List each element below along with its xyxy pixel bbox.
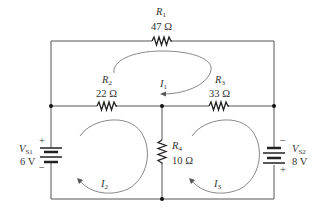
vs2-name-label: VS2: [292, 143, 306, 156]
vs2-minus-sign: −: [280, 135, 286, 146]
vs1-value-label: 6 V: [20, 156, 36, 167]
arrow-head-icon: [160, 92, 166, 97]
resistor-r1: R1 47 Ω: [151, 6, 172, 45]
r1-value-label: 47 Ω: [151, 21, 172, 32]
resistor-r2: R2 22 Ω: [96, 74, 117, 110]
r2-value-label: 22 Ω: [96, 88, 117, 99]
i2-label: I2: [100, 178, 109, 191]
wires: [51, 41, 274, 199]
vs1-name-label: VS1: [19, 143, 33, 156]
r2-name-label: R2: [101, 74, 112, 87]
loop-current-i3: I3: [189, 120, 259, 193]
i3-label: I3: [213, 178, 222, 191]
r3-value-label: 33 Ω: [209, 88, 230, 99]
vs2-plus-sign: +: [280, 164, 286, 175]
i1-label: I1: [159, 78, 168, 91]
r4-value-label: 10 Ω: [172, 155, 193, 166]
circuit-diagram: R1 47 Ω R2 22 Ω R3 33 Ω R4 10 Ω + − VS1 …: [0, 0, 322, 213]
vs1-plus-sign: +: [39, 135, 45, 146]
voltage-source-vs2: − + VS2 8 V: [263, 135, 308, 175]
r3-name-label: R3: [214, 74, 225, 87]
vs1-minus-sign: −: [39, 162, 45, 173]
vs2-value-label: 8 V: [292, 156, 308, 167]
loop-current-i1: I1: [114, 51, 211, 97]
loop-current-i2: I2: [77, 120, 147, 193]
resistor-r4: R4 10 Ω: [158, 140, 193, 166]
resistor-r3: R3 33 Ω: [209, 74, 230, 110]
voltage-source-vs1: + − VS1 6 V: [19, 135, 62, 173]
r1-name-label: R1: [155, 6, 166, 19]
r4-name-label: R4: [171, 140, 182, 153]
